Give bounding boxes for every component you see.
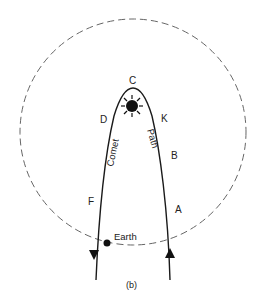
earth-orbit-circle — [20, 19, 246, 245]
earth-dot — [104, 240, 111, 247]
up-arrow-icon — [165, 248, 175, 258]
label-comet: Comet — [104, 137, 121, 167]
sun-icon — [121, 95, 143, 117]
label-path: Path — [145, 128, 161, 150]
label-earth: Earth — [114, 231, 137, 242]
label-c: C — [129, 75, 136, 86]
label-a: A — [175, 204, 182, 215]
label-k: K — [161, 113, 168, 124]
comet-orbit-diagram: C D K B F A Earth Comet Path (b) — [0, 0, 263, 303]
label-b: B — [171, 150, 178, 161]
label-f: F — [88, 196, 94, 207]
figure-caption: (b) — [126, 280, 137, 290]
label-d: D — [100, 114, 107, 125]
